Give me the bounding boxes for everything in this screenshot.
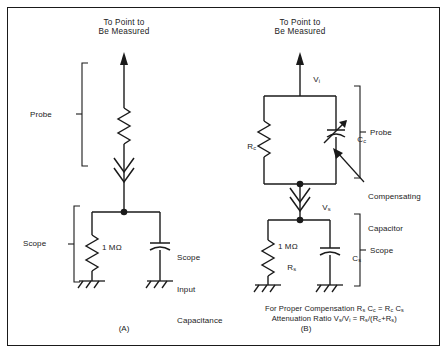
ground-symbol-b-left bbox=[254, 285, 281, 292]
formula2-prefix: Attenuation Ratio V bbox=[272, 314, 339, 323]
junction-dot-a bbox=[121, 209, 128, 216]
rc-subscript: c bbox=[253, 145, 256, 151]
cs-plate-bottom-b bbox=[320, 252, 340, 255]
scope-voltage-label-b: Vs bbox=[313, 194, 331, 222]
scope-bracket-a bbox=[74, 206, 80, 282]
callout-line-2: Capacitor bbox=[368, 224, 421, 235]
vi-subscript: i bbox=[319, 78, 320, 84]
ground-symbol-a-left bbox=[78, 281, 105, 288]
probe-resistor-symbol-b bbox=[258, 121, 270, 157]
scope-label-b: Scope bbox=[370, 246, 393, 255]
circuit-a-group bbox=[68, 52, 173, 288]
cc-subscript: c bbox=[363, 138, 366, 144]
scope-resistor-label-b: Rs bbox=[278, 254, 296, 282]
compensating-capacitor-callout-b: Compensating Capacitor bbox=[368, 171, 421, 255]
cap-label-line-1: Scope bbox=[177, 253, 223, 264]
callout-line-1: Compensating bbox=[368, 192, 421, 203]
probe-label-a: Probe bbox=[30, 110, 52, 119]
ground-symbol-b-right bbox=[316, 285, 343, 292]
arrow-to-point-a bbox=[120, 52, 128, 65]
formula2-mid4: +R bbox=[381, 314, 391, 323]
vs-subscript: s bbox=[328, 206, 331, 212]
probe-bracket-a bbox=[82, 63, 88, 166]
heading-to-point-a: To Point to Be Measured bbox=[74, 18, 174, 37]
formula2-mid2: = R bbox=[351, 314, 366, 323]
heading-to-point-b: To Point to Be Measured bbox=[250, 18, 350, 37]
ground-symbol-a-right bbox=[146, 281, 173, 288]
scope-resistor-value-b: 1 MΩ bbox=[278, 242, 298, 251]
formula2-suffix: ) bbox=[394, 314, 397, 323]
probe-resistor-label-b: Rc bbox=[238, 133, 256, 161]
rs-subscript: s bbox=[293, 266, 296, 272]
caption-b: (B) bbox=[282, 324, 330, 333]
probe-compensation-figure: To Point to Be Measured Probe Scope 1 MΩ… bbox=[0, 0, 448, 355]
probe-resistor-symbol-a bbox=[118, 108, 130, 144]
scope-input-capacitance-label-a: Scope Input Capacitance bbox=[177, 232, 223, 348]
formula2-mid3: /(R bbox=[368, 314, 378, 323]
cap-label-line-3: Capacitance bbox=[177, 316, 223, 327]
cs-subscript: s bbox=[358, 257, 361, 263]
scope-capacitor-label-b: Cs bbox=[343, 245, 361, 273]
comp-capacitor-label-b: Cc bbox=[348, 126, 366, 154]
formula-line-attenuation: Attenuation Ratio Vs/Vi = Rs/(Rc+Rs) bbox=[230, 306, 430, 332]
cap-plate-bottom-a bbox=[150, 247, 170, 250]
junction-dot-b-lower bbox=[297, 217, 304, 224]
scope-resistor-symbol-b bbox=[262, 240, 274, 276]
scope-label-a: Scope bbox=[23, 239, 46, 248]
cap-label-line-2: Input bbox=[177, 285, 223, 296]
caption-a: (A) bbox=[100, 324, 148, 333]
resistor-value-a: 1 MΩ bbox=[102, 243, 122, 252]
scope-resistor-symbol-a bbox=[86, 235, 98, 271]
input-voltage-label-b: Vi bbox=[304, 66, 320, 94]
probe-label-b: Probe bbox=[370, 128, 392, 137]
